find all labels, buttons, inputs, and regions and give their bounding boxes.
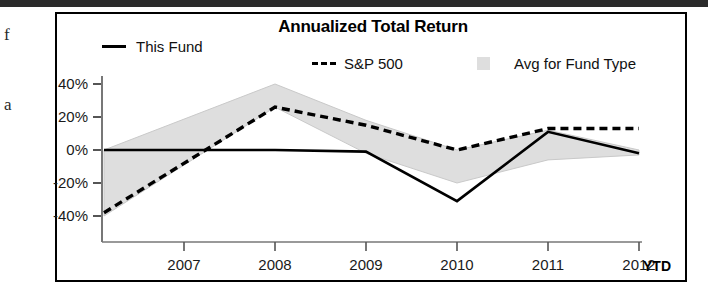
x-axis-label-0: 2007 (154, 256, 214, 273)
y-axis-label-2: 0% (36, 141, 88, 158)
x-axis-label-3: 2010 (427, 256, 487, 273)
page-edge-glyph-f: f (4, 26, 10, 43)
chart-plot-area: 40%20%0%-20%-40%200720082009201020112012 (57, 14, 689, 284)
y-axis-label-1: 20% (36, 108, 88, 125)
ytd-label: YTD (643, 258, 671, 274)
x-axis-label-4: 2011 (518, 256, 578, 273)
x-axis-label-2: 2009 (336, 256, 396, 273)
y-axis-label-3: -20% (36, 174, 88, 191)
x-axis-label-1: 2008 (245, 256, 305, 273)
chart-panel: Annualized Total Return This Fund S&P 50… (55, 12, 687, 282)
chart-plot-svg (57, 14, 689, 284)
y-axis-label-4: -40% (36, 207, 88, 224)
page-edge-glyph-a: a (4, 96, 12, 113)
scan-artifact-band (0, 0, 708, 7)
y-axis-label-0: 40% (36, 75, 88, 92)
